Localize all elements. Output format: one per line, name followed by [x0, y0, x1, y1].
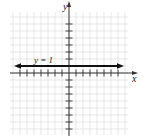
x-axis-label: x — [131, 73, 137, 84]
axes — [10, 1, 138, 136]
y-axis-label: y — [62, 1, 68, 12]
line-label: y = 1 — [33, 55, 53, 65]
coordinate-plane: y x y = 1 — [0, 0, 146, 140]
